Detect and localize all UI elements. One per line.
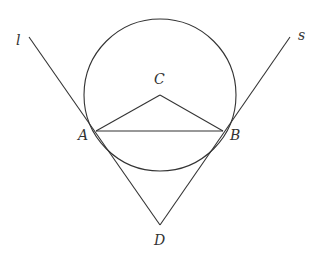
line-label-l: l [16,32,20,48]
point-label-a: A [76,127,88,143]
line-label-s: s [298,27,305,43]
point-label-d: D [153,232,165,248]
segment-cb [160,95,223,131]
point-label-c: C [154,71,165,87]
segment-ca [96,95,160,131]
diagram-svg: l s A B C D [0,0,317,254]
point-label-b: B [229,127,240,143]
geometry-diagram: l s A B C D [0,0,317,254]
